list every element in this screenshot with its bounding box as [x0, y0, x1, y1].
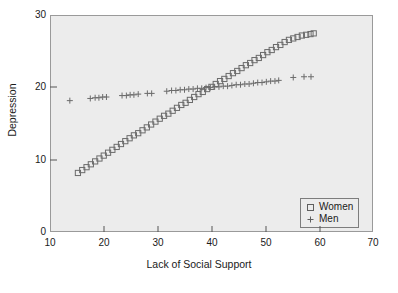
chart-legend: Women Men	[300, 198, 359, 228]
data-point-men	[308, 74, 314, 80]
data-point-men	[164, 88, 170, 94]
x-tick-30: 30	[145, 238, 171, 248]
data-point-men	[250, 80, 256, 86]
data-point-men	[246, 81, 252, 87]
legend-item-men: Men	[304, 213, 353, 225]
data-point-men	[263, 79, 269, 85]
data-point-men	[123, 93, 129, 99]
x-tick-60: 60	[307, 238, 333, 248]
y-tick-0: 0	[20, 227, 46, 237]
data-point-men	[190, 86, 196, 92]
data-point-men	[149, 90, 155, 96]
data-point-men	[216, 84, 222, 90]
square-marker-icon	[304, 204, 317, 211]
data-point-men	[199, 85, 205, 91]
y-tick-20: 20	[20, 82, 46, 92]
data-point-men	[290, 74, 296, 80]
legend-item-women: Women	[304, 201, 353, 213]
x-tick-70: 70	[360, 238, 386, 248]
plus-marker-icon	[304, 216, 317, 223]
data-point-men	[87, 95, 93, 101]
data-point-men	[301, 74, 307, 80]
data-point-men	[237, 82, 243, 88]
series-women-markers	[75, 31, 316, 176]
data-point-men	[272, 78, 278, 84]
chart-figure: 30 20 10 0 10 20 30 40 50 60 70 Lack of …	[0, 0, 398, 293]
x-tick-50: 50	[253, 238, 279, 248]
data-point-men	[131, 92, 137, 98]
data-point-men	[67, 98, 73, 104]
data-point-men	[103, 94, 109, 100]
series-men-markers	[67, 74, 314, 104]
data-point-men	[182, 87, 188, 93]
data-point-men	[96, 95, 102, 101]
data-point-men	[173, 88, 179, 94]
x-axis-title: Lack of Social Support	[0, 258, 398, 270]
x-tick-20: 20	[91, 238, 117, 248]
legend-label-men: Men	[317, 213, 338, 225]
y-tick-10: 10	[20, 155, 46, 165]
data-point-men	[259, 80, 265, 86]
legend-label-women: Women	[317, 201, 353, 213]
x-tick-10: 10	[37, 238, 63, 248]
data-point-men	[225, 83, 231, 89]
data-point-men	[229, 82, 235, 88]
data-point-men	[135, 91, 141, 97]
x-tick-40: 40	[199, 238, 225, 248]
y-tick-30: 30	[20, 10, 46, 20]
data-point-men	[276, 77, 282, 83]
y-axis-title: Depression	[6, 70, 18, 150]
